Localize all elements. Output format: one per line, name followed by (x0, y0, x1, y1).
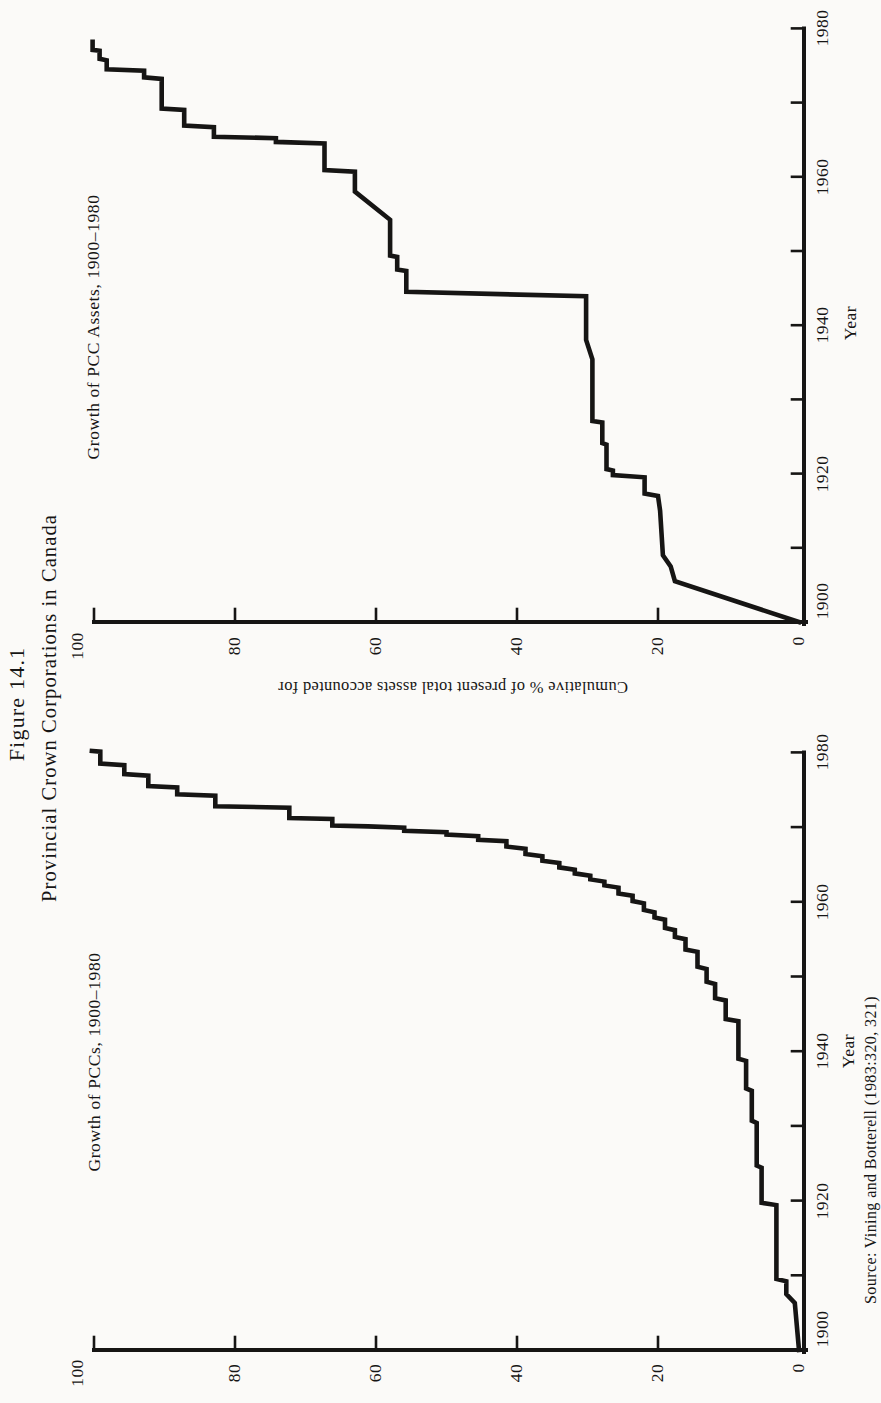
pccs-curve (92, 751, 799, 1350)
pcc-assets-y-tick-0: 0 (790, 636, 808, 645)
pcc-assets-x-tick-1960: 1960 (814, 158, 832, 195)
pccs-x-tick-1900: 1900 (814, 1311, 832, 1348)
pccs-y-tick-80: 80 (226, 1364, 244, 1382)
pcc-assets-y-tick-80: 80 (226, 637, 244, 655)
pcc-assets-y-tick-60: 60 (367, 637, 385, 655)
pccs-plot (92, 751, 806, 1352)
pcc-assets-y-tick-40: 40 (508, 637, 526, 655)
pccs-y-tick-20: 20 (649, 1364, 667, 1382)
pcc-assets-x-tick-1940: 1940 (814, 307, 832, 344)
charts-canvas (0, 0, 881, 1403)
pccs-y-tick-40: 40 (508, 1364, 526, 1382)
pcc-assets-y-tick-20: 20 (649, 637, 667, 655)
pccs-y-tick-100: 100 (69, 1359, 87, 1386)
pccs-y-tick-60: 60 (367, 1364, 385, 1382)
pccs-x-tick-1920: 1920 (814, 1182, 832, 1219)
scanned-figure-page: Figure 14.1 Provincial Crown Corporation… (0, 0, 881, 1403)
pccs-x-axis-title: Year (840, 1034, 858, 1068)
pcc-assets-curve (93, 42, 799, 622)
pcc-assets-y-tick-100: 100 (69, 632, 87, 659)
pcc-assets-x-axis-title: Year (842, 306, 860, 340)
pcc-assets-plot (93, 28, 806, 624)
pccs-x-tick-1980: 1980 (814, 734, 832, 771)
pcc-assets-x-tick-1980: 1980 (814, 10, 832, 47)
pccs-y-tick-0: 0 (790, 1363, 808, 1372)
pcc-assets-x-tick-1920: 1920 (814, 455, 832, 492)
pcc-assets-x-tick-1900: 1900 (814, 583, 832, 620)
pccs-x-tick-1940: 1940 (814, 1033, 832, 1070)
pccs-x-tick-1960: 1960 (814, 883, 832, 920)
